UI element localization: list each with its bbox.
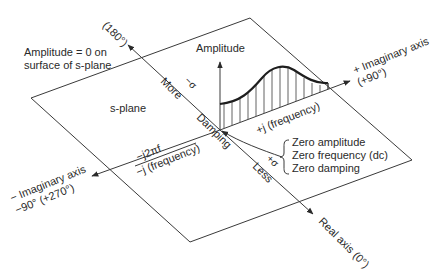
origin-note-zero-frequency: Zero frequency (dc) <box>292 149 388 161</box>
positive-real-axis-label: Real axis (0°) <box>317 215 372 270</box>
negative-real-axis-label: (180°) <box>101 19 131 49</box>
s-plane-label: s-plane <box>110 102 146 114</box>
origin-notes-brace <box>280 140 289 174</box>
origin-note-zero-damping: Zero damping <box>292 162 360 174</box>
positive-imaginary-axis-label-line1: + Imaginary axis <box>351 34 430 75</box>
amplitude-label: Amplitude <box>196 42 245 54</box>
s-plane-diagram: Amplitude = 0 on surface of s-plane (180… <box>0 0 443 277</box>
real-axis-minus-sigma-label: −σ <box>183 75 200 92</box>
surface-note-line2: surface of s-plane <box>24 59 111 71</box>
real-axis-damping-label: Damping <box>195 111 235 151</box>
real-axis-more-label: More <box>159 75 185 101</box>
surface-note-line1: Amplitude = 0 on <box>24 46 107 58</box>
origin-note-zero-amplitude: Zero amplitude <box>292 136 365 148</box>
